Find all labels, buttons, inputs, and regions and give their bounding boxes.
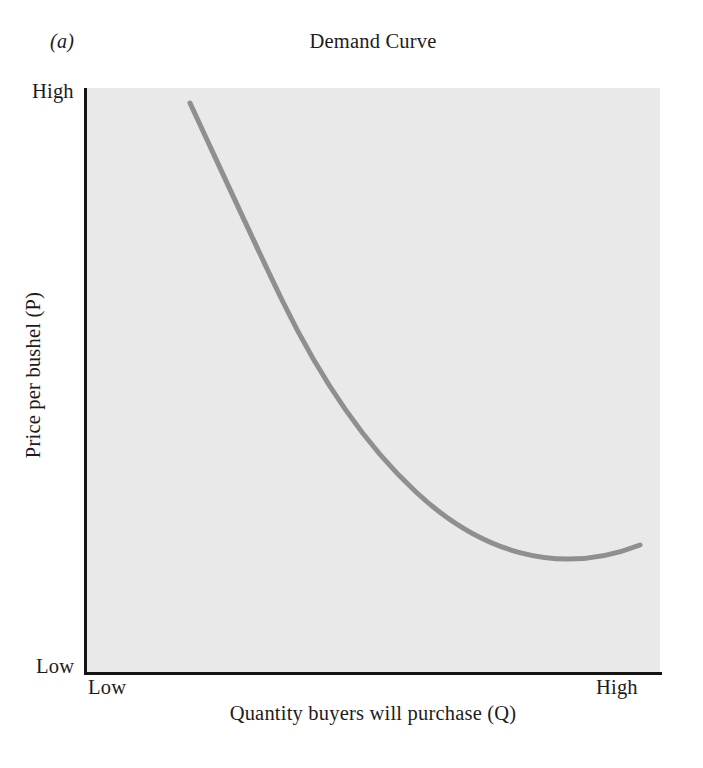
y-axis-tick-low: Low [36, 655, 74, 678]
y-axis-title-text: Price per bushel (P) [22, 250, 45, 500]
panel-label: (a) [50, 30, 74, 53]
demand-curve-plot [86, 88, 660, 672]
x-axis-title: Quantity buyers will purchase (Q) [86, 702, 660, 725]
demand-curve-figure: (a) Demand Curve High Low Low High Price… [0, 0, 703, 768]
y-axis-title: Price per bushel (P) [0, 0, 23, 250]
y-axis-line [84, 88, 87, 675]
plot-area [86, 88, 660, 672]
demand-curve-line [190, 103, 640, 559]
x-axis-line [84, 672, 662, 675]
y-axis-tick-high: High [32, 80, 74, 103]
x-axis-tick-low: Low [88, 676, 126, 699]
chart-title: Demand Curve [86, 30, 660, 53]
x-axis-tick-high: High [596, 676, 638, 699]
